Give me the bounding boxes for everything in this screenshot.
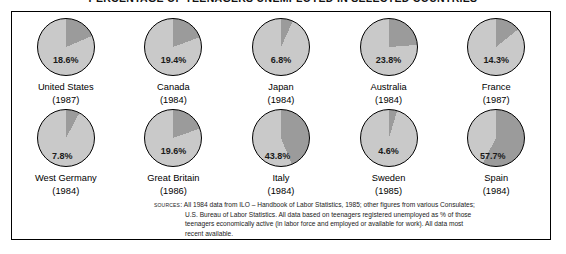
pie-year-west-germany: (1984) [35,185,97,198]
pie-country-great-britain: Great Britain [147,173,199,183]
pie-caption-sweden: Sweden (1985) [372,172,406,197]
pie-chart-grid: 18.6% United States (1987) 19.4% Canada … [12,18,550,200]
pie-cell-italy: 43.8% Italy (1984) [229,109,333,197]
sources-line-2: U.S. Bureau of Labor Statistics. All dat… [154,210,532,220]
pie-chart-canada [144,18,202,76]
sources-note: Sources: All 1984 data from ILO – Handbo… [154,200,532,238]
pie-value-canada: 19.4% [161,55,187,65]
pie-wrap-sweden: 4.6% [360,109,418,167]
chart-title-strip: PERCENTAGE OF TEENAGERS UNEMPLOYED IN SE… [0,0,566,5]
pie-wrap-spain: 57.7% [467,109,525,167]
pie-wrap-france: 14.3% [467,18,525,76]
pie-chart-sweden [360,109,418,167]
pie-cell-united-states: 18.6% United States (1987) [14,18,118,106]
sources-line-3: teenagers economically active (in labor … [154,219,532,229]
pie-chart-great-britain [144,109,202,167]
pie-cell-canada: 19.4% Canada (1984) [121,18,225,106]
pie-country-france: France [482,82,511,92]
pie-country-italy: Italy [272,173,289,183]
pie-value-australia: 23.8% [376,55,402,65]
sources-line-4: recent available. [154,229,532,239]
pie-caption-canada: Canada (1984) [157,81,190,106]
pie-caption-australia: Australia (1984) [370,81,406,106]
pie-value-italy: 43.8% [265,151,291,161]
pie-cell-sweden: 4.6% Sweden (1985) [337,109,441,197]
pie-caption-italy: Italy (1984) [268,172,295,197]
pie-chart-australia [360,18,418,76]
sources-label: Sources: [154,200,182,209]
pie-caption-japan: Japan (1984) [268,81,295,106]
pie-caption-west-germany: West Germany (1984) [35,172,97,197]
pie-country-canada: Canada [157,82,190,92]
pie-value-japan: 6.8% [271,55,292,65]
pie-year-united-states: (1987) [38,94,94,107]
pie-value-united-states: 18.6% [53,55,79,65]
pie-wrap-united-states: 18.6% [37,18,95,76]
pie-caption-spain: Spain (1984) [483,172,510,197]
pie-wrap-great-britain: 19.6% [144,109,202,167]
pie-year-sweden: (1985) [372,185,406,198]
pie-value-great-britain: 19.6% [161,146,187,156]
pie-chart-united-states [37,18,95,76]
sources-text-1: All 1984 data from ILO – Handbook of Lab… [184,201,475,208]
pie-row-2: 7.8% West Germany (1984) 19.6% Great Bri… [12,109,550,197]
pie-chart-japan [252,18,310,76]
pie-chart-france [467,18,525,76]
pie-row-1: 18.6% United States (1987) 19.4% Canada … [12,18,550,106]
pie-country-australia: Australia [370,82,406,92]
pie-value-spain: 57.7% [480,151,506,161]
pie-year-italy: (1984) [268,185,295,198]
pie-cell-great-britain: 19.6% Great Britain (1986) [121,109,225,197]
pie-year-japan: (1984) [268,94,295,107]
sources-line-1: Sources: All 1984 data from ILO – Handbo… [154,200,532,210]
pie-year-spain: (1984) [483,185,510,198]
pie-value-france: 14.3% [483,55,509,65]
pie-wrap-australia: 23.8% [360,18,418,76]
pie-cell-west-germany: 7.8% West Germany (1984) [14,109,118,197]
pie-country-west-germany: West Germany [35,173,97,183]
pie-cell-japan: 6.8% Japan (1984) [229,18,333,106]
pie-wrap-west-germany: 7.8% [37,109,95,167]
pie-country-sweden: Sweden [372,173,406,183]
pie-value-west-germany: 7.8% [52,151,73,161]
pie-caption-france: France (1987) [482,81,511,106]
page-title: PERCENTAGE OF TEENAGERS UNEMPLOYED IN SE… [0,0,566,5]
pie-year-great-britain: (1986) [147,185,199,198]
pie-cell-spain: 57.7% Spain (1984) [444,109,548,197]
pie-wrap-japan: 6.8% [252,18,310,76]
pie-year-canada: (1984) [157,94,190,107]
pie-wrap-canada: 19.4% [144,18,202,76]
pie-year-australia: (1984) [370,94,406,107]
pie-caption-great-britain: Great Britain (1986) [147,172,199,197]
pie-cell-france: 14.3% France (1987) [444,18,548,106]
pie-wrap-italy: 43.8% [252,109,310,167]
pie-country-spain: Spain [484,173,508,183]
pie-value-sweden: 4.6% [378,146,399,156]
pie-caption-united-states: United States (1987) [38,81,94,106]
chart-panel: 18.6% United States (1987) 19.4% Canada … [11,11,551,240]
pie-year-france: (1987) [482,94,511,107]
pie-country-united-states: United States [38,82,94,92]
pie-cell-australia: 23.8% Australia (1984) [337,18,441,106]
pie-country-japan: Japan [268,82,293,92]
